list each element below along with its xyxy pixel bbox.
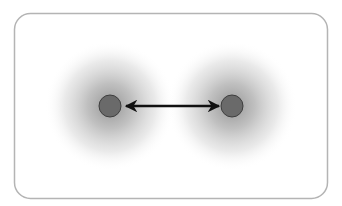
diagram-canvas bbox=[0, 0, 342, 206]
nucleus-left bbox=[99, 95, 121, 117]
nucleus-right bbox=[221, 95, 243, 117]
